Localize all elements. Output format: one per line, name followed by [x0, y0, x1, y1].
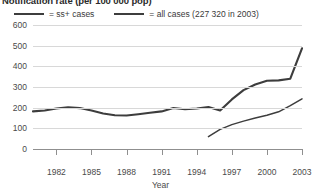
- series-line-all-cases: [33, 48, 302, 115]
- y-axis-label: 400: [1, 61, 27, 71]
- y-axis-label: 500: [1, 41, 27, 51]
- legend-entry-all-cases: = all cases (227 320 in 2003): [114, 9, 258, 19]
- legend-entry-ss-cases: = ss+ cases: [14, 9, 94, 19]
- x-axis-tick: [56, 149, 57, 155]
- chart-container: Notification rate (per 100 000 pop) = ss…: [0, 0, 321, 196]
- chart-title: Notification rate (per 100 000 pop): [2, 0, 152, 6]
- x-axis-tick: [267, 149, 268, 155]
- gridline: [33, 66, 302, 67]
- x-axis-label: 1985: [82, 167, 101, 177]
- chart-legend: = ss+ cases = all cases (227 320 in 2003…: [14, 8, 259, 20]
- x-axis-line: [33, 149, 302, 150]
- x-axis-tick: [302, 149, 303, 155]
- x-axis-label: 1988: [117, 167, 136, 177]
- y-axis-label: 0: [1, 144, 27, 154]
- x-axis-label: 1997: [222, 167, 241, 177]
- x-axis-tick: [127, 149, 128, 155]
- gridline: [33, 87, 302, 88]
- x-axis-label: 1982: [47, 167, 66, 177]
- legend-label-ss-cases: = ss+ cases: [49, 9, 94, 19]
- x-axis-title: Year: [0, 180, 321, 190]
- y-axis-label: 600: [1, 20, 27, 30]
- gridline: [33, 108, 302, 109]
- gridline: [33, 25, 302, 26]
- x-axis-label: 1994: [187, 167, 206, 177]
- series-line-ss-cases: [208, 99, 302, 137]
- legend-swatch-ss-cases: [14, 13, 44, 15]
- x-axis-tick: [197, 149, 198, 155]
- gridline: [33, 46, 302, 47]
- y-axis-label: 300: [1, 82, 27, 92]
- legend-label-all-cases: = all cases (227 320 in 2003): [149, 9, 258, 19]
- y-axis-label: 200: [1, 103, 27, 113]
- x-axis-tick: [162, 149, 163, 155]
- y-axis-label: 100: [1, 123, 27, 133]
- x-axis-label: 1991: [152, 167, 171, 177]
- x-axis-tick: [91, 149, 92, 155]
- legend-swatch-all-cases: [114, 13, 144, 16]
- x-axis-label: 2000: [257, 167, 276, 177]
- x-axis-label: 2003: [293, 167, 312, 177]
- gridline: [33, 128, 302, 129]
- x-axis-tick: [232, 149, 233, 155]
